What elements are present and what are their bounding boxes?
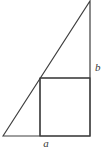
- figure-canvas: a b: [0, 0, 106, 159]
- side-label-b: b: [95, 61, 101, 73]
- geometry-figure: a b: [0, 0, 106, 159]
- side-label-a: a: [43, 137, 49, 149]
